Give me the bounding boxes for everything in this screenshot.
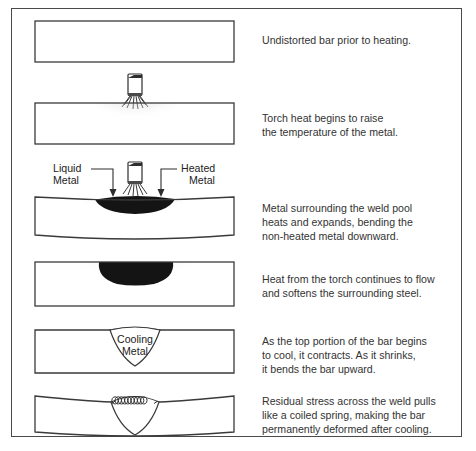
illustration-cooling-bead: Cooling Metal (23, 322, 251, 386)
panel-caption-3: Metal surrounding the weld pool heats an… (262, 201, 458, 244)
panel-expanding-metal: Liquid Metal Heated Metal (12, 159, 461, 254)
arrowhead-heated-metal (158, 189, 165, 197)
figure-frame: Undistorted bar prior to heating. (11, 8, 462, 437)
panel-caption-6: Residual stress across the weld pulls li… (262, 394, 458, 437)
illustration-bar-weld-pool (23, 254, 251, 322)
panel-caption-2: Torch heat begins to raise the temperatu… (262, 111, 458, 139)
torch-icon (123, 162, 147, 196)
label-heated-metal-line1: Heated (181, 162, 215, 174)
leader-line-liquid-metal (91, 169, 113, 189)
panel-undistorted-bar: Undistorted bar prior to heating. (12, 15, 461, 77)
label-liquid-metal-line2: Metal (53, 174, 79, 186)
panel-caption-1: Undistorted bar prior to heating. (262, 33, 458, 47)
leader-line-heated-metal (161, 169, 177, 189)
illustration-bent-bar-weld-pool: Liquid Metal Heated Metal (23, 159, 251, 254)
illustration-straight-bar (23, 15, 251, 77)
illustration-bar-with-torch (23, 71, 251, 159)
panel-residual-stress: Residual stress across the weld pulls li… (12, 386, 461, 446)
label-cooling-metal-line2: Metal (122, 345, 148, 357)
callout-liquid-metal: Liquid Metal (53, 162, 117, 197)
illustration-residual-spring (23, 386, 251, 446)
panel-caption-5: As the top portion of the bar begins to … (262, 334, 458, 377)
arrowhead-liquid-metal (110, 189, 117, 197)
label-heated-metal-line2: Metal (189, 174, 215, 186)
panel-cooling-metal: Cooling Metal As the top portion of the … (12, 322, 461, 386)
steel-bar (35, 21, 234, 62)
callout-heated-metal: Heated Metal (158, 162, 216, 197)
panel-caption-4: Heat from the torch continues to flow an… (262, 272, 458, 300)
panel-heat-flow: Heat from the torch continues to flow an… (12, 254, 461, 322)
panel-torch-heating: Torch heat begins to raise the temperatu… (12, 71, 461, 159)
label-cooling-metal-line1: Cooling (117, 333, 153, 345)
flame-streaks (123, 184, 147, 196)
label-liquid-metal-line1: Liquid (53, 162, 81, 174)
